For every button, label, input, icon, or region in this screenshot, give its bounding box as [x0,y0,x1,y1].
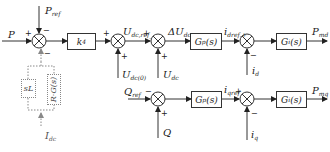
label-idref: idref.+ [224,27,246,38]
label-udc0: Udc(0) [122,70,146,81]
label-delta-udc: ΔUdc [168,27,191,38]
voltage-controller-block: Gp(s) [190,33,222,50]
sign-sum4-bottom: − [250,52,257,60]
label-qref: Qref [124,87,141,98]
sign-sum5-left: − [145,88,152,96]
label-pmd: Pmd [312,27,328,38]
label-pmq: Pmq [312,86,328,97]
label-pref: Pref [45,6,60,17]
label-q: Q [163,128,171,138]
summing-junction-6 [240,92,254,106]
sign-sum1-bottom: − [44,50,51,58]
sign-sum6-bottom: − [251,110,258,118]
sign-sum3-left: + [143,30,150,38]
sign-sum1-top: − [43,27,50,35]
inductive-feedback-block: sL [21,79,36,98]
sign-sum5-bottom: + [161,110,168,118]
sign-sum2-bottom: + [121,53,128,61]
label-p-input: P [8,30,15,40]
sign-sum2-left: + [103,30,110,38]
resistive-feedback-block: R·G(s) [47,74,61,105]
label-udc: Udc [163,70,179,81]
reactive-controller-block: Gp(s) [191,91,222,108]
current-controller-q-block: Gi(s) [276,91,307,108]
current-controller-d-block: Gi(s) [276,33,307,50]
sign-sum3-bottom: + [161,53,168,61]
sign-sum6-left: + [235,88,242,96]
summing-junction-3 [151,34,165,48]
sign-sum1-left: + [25,30,32,38]
label-iq: iq [251,130,258,141]
label-id: id [252,66,259,77]
gain-block-k4: k4 [67,33,96,50]
summing-junction-5 [151,92,165,106]
label-idc: Idc [45,131,56,142]
summing-junction-1 [32,34,46,48]
